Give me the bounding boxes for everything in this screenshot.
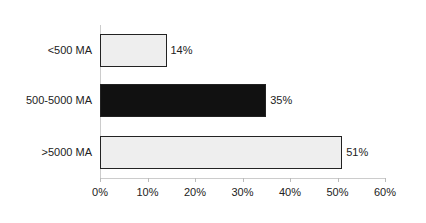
x-tick-label: 20% [184,186,206,198]
x-tick [100,178,101,182]
x-tick [243,178,244,182]
x-tick [195,178,196,182]
x-tick [148,178,149,182]
bar [100,84,266,117]
x-tick [385,178,386,182]
x-tick [338,178,339,182]
category-label: 500-5000 MA [26,94,92,106]
x-tick [290,178,291,182]
category-label: >5000 MA [42,146,92,158]
value-label: 35% [270,94,292,106]
x-tick-label: 50% [326,186,348,198]
x-tick-label: 30% [231,186,253,198]
x-tick-label: 40% [279,186,301,198]
value-label: 51% [346,146,368,158]
bar [100,136,342,169]
bar-chart: <500 MA14%500-5000 MA35%>5000 MA51% 0%10… [0,0,426,223]
x-tick-label: 0% [92,186,108,198]
x-tick-label: 10% [136,186,158,198]
category-label: <500 MA [48,44,92,56]
bar [100,34,167,67]
value-label: 14% [171,44,193,56]
x-tick-label: 60% [374,186,396,198]
